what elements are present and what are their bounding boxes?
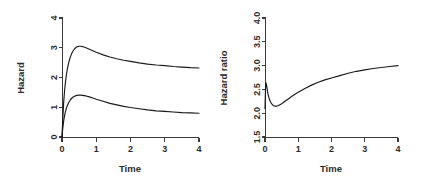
y-tick-label: 0: [49, 134, 59, 139]
x-axis-ticks: [62, 138, 199, 142]
panel-hazard: 01234 01234 Time Hazard: [0, 0, 212, 182]
x-axis-ticks: [265, 138, 398, 142]
x-tick-label: 3: [362, 144, 367, 154]
x-axis-tick-labels: 01234: [59, 144, 201, 154]
x-tick-label: 0: [262, 144, 267, 154]
hazard-ratio-curve: [265, 66, 398, 109]
x-tick-label: 3: [162, 144, 167, 154]
x-tick-label: 2: [128, 144, 133, 154]
y-tick-label: 1: [49, 105, 59, 110]
y-tick-label: 3.5: [252, 36, 262, 49]
y-axis-ticks: [59, 18, 63, 137]
y-axis-tick-labels: 1.52.02.53.03.54.0: [252, 12, 262, 144]
series-line: [62, 46, 199, 137]
x-axis-title: Time: [320, 163, 342, 174]
y-axis-ticks: [262, 18, 266, 137]
y-tick-label: 4: [49, 15, 59, 20]
y-tick-label: 2.0: [252, 107, 262, 120]
x-tick-label: 0: [59, 144, 64, 154]
series-line: [265, 66, 398, 109]
x-tick-label: 1: [296, 144, 301, 154]
panel-hazard-ratio: 01234 1.52.02.53.03.54.0 Time Hazard rat…: [213, 0, 425, 182]
y-tick-label: 2.5: [252, 83, 262, 96]
hazard-ratio-plot-svg: 01234 1.52.02.53.03.54.0 Time Hazard rat…: [213, 0, 425, 182]
y-axis-title: Hazard ratio: [218, 50, 229, 105]
x-tick-label: 2: [329, 144, 334, 154]
hazard-plot-svg: 01234 01234 Time Hazard: [0, 0, 212, 182]
x-axis-title: Time: [119, 163, 141, 174]
y-axis-title: Hazard: [15, 62, 26, 94]
x-tick-label: 1: [94, 144, 99, 154]
y-tick-label: 3: [49, 45, 59, 50]
figure-two-panel-plot: 01234 01234 Time Hazard 01234 1.52.02.53…: [0, 0, 425, 182]
x-tick-label: 4: [196, 144, 201, 154]
hazard-curves: [62, 46, 199, 137]
y-axis-tick-labels: 01234: [49, 15, 59, 139]
x-tick-label: 4: [395, 144, 400, 154]
series-line: [62, 95, 199, 137]
y-tick-label: 3.0: [252, 59, 262, 72]
y-tick-label: 2: [49, 75, 59, 80]
y-tick-label: 4.0: [252, 12, 262, 25]
x-axis-tick-labels: 01234: [262, 144, 400, 154]
y-tick-label: 1.5: [252, 131, 262, 144]
